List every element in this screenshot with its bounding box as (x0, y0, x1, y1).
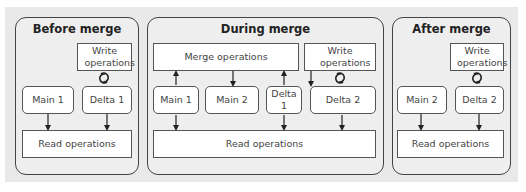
panel-title: During merge (148, 22, 383, 36)
panel-title: Before merge (16, 22, 138, 36)
read-operations-label: Read operations (412, 138, 489, 150)
delta-2-label: Delta 2 (462, 94, 496, 106)
write-operations-label: Write operations (320, 45, 360, 69)
write-operations-label: Write operations (457, 45, 497, 69)
read-operations-box: Read operations (153, 130, 376, 158)
main-1-label: Main 1 (160, 94, 192, 106)
main-2-box: Main 2 (397, 86, 447, 114)
merge-operations-label: Merge operations (184, 51, 267, 63)
write-operations-box: Write operations (450, 43, 504, 71)
write-operations-box: Write operations (77, 43, 132, 71)
read-operations-box: Read operations (397, 130, 504, 158)
write-operations-box: Write operations (304, 43, 376, 71)
read-operations-label: Read operations (226, 138, 303, 150)
main-2-label: Main 2 (406, 94, 438, 106)
delta-2-label: Delta 2 (326, 94, 360, 106)
panel-title: After merge (393, 22, 510, 36)
read-operations-box: Read operations (22, 130, 132, 158)
merge-operations-box: Merge operations (153, 43, 299, 71)
delta-1-label: Delta 1 (267, 88, 301, 112)
main-1-label: Main 1 (32, 94, 64, 106)
main-2-label: Main 2 (216, 94, 248, 106)
delta-1-box: Delta 1 (82, 86, 132, 114)
delta-2-box: Delta 2 (455, 86, 504, 114)
delta-2-box: Delta 2 (310, 86, 376, 114)
main-2-box: Main 2 (205, 86, 259, 114)
main-1-box: Main 1 (22, 86, 74, 114)
delta-1-box: Delta 1 (266, 86, 302, 114)
delta-1-label: Delta 1 (90, 94, 124, 106)
read-operations-label: Read operations (38, 138, 115, 150)
write-operations-label: Write operations (85, 45, 125, 69)
main-1-box: Main 1 (153, 86, 199, 114)
